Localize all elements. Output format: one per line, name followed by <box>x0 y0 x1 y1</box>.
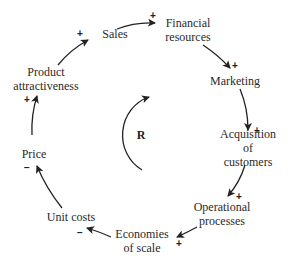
link-unitcosts-price <box>37 166 62 208</box>
polarity-acquisition-operational: + <box>236 192 242 202</box>
polarity-attractiveness-sales: + <box>77 29 83 39</box>
link-price-attractiveness <box>32 96 37 135</box>
polarity-financial-marketing: + <box>232 61 238 71</box>
polarity-operational-economies: + <box>176 239 182 249</box>
polarity-marketing-acquisition: + <box>254 126 260 136</box>
loop-type-label: R <box>137 128 146 143</box>
node-unit-costs: Unit costs <box>47 210 95 224</box>
causal-loop-diagram: Sales Financial resources Marketing Acqu… <box>0 0 299 270</box>
polarity-unitcosts-price: − <box>24 163 30 173</box>
link-operational-economies <box>177 227 197 237</box>
node-acquisition-of-customers: Acquisition of customers <box>220 127 276 169</box>
node-sales: Sales <box>102 27 127 41</box>
polarity-economies-unitcosts: − <box>77 228 83 238</box>
polarity-sales-financial: + <box>150 11 156 21</box>
link-financial-marketing <box>203 45 230 68</box>
link-economies-unitcosts <box>87 228 111 237</box>
node-economies-of-scale: Economies of scale <box>115 227 168 255</box>
node-marketing: Marketing <box>210 74 260 88</box>
link-attractiveness-sales <box>58 40 88 65</box>
node-product-attractiveness: Product attractiveness <box>13 65 78 93</box>
link-marketing-acquisition <box>240 89 248 130</box>
node-operational-processes: Operational processes <box>194 200 251 228</box>
node-price: Price <box>22 147 47 161</box>
node-financial-resources: Financial resources <box>165 16 210 44</box>
polarity-price-attractiveness: + <box>24 95 30 105</box>
